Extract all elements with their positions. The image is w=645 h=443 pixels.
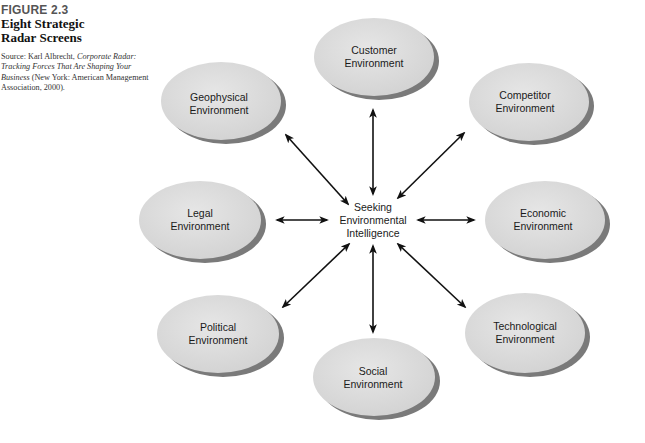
radar-diagram: Customer Environment Competitor Environm… [0, 0, 645, 443]
node-legal-line1: Legal [187, 207, 213, 219]
node-political-line1: Political [200, 321, 236, 333]
node-social-line1: Social [359, 365, 388, 377]
node-technological-line1: Technological [493, 320, 557, 332]
node-geophysical-line2: Environment [190, 104, 249, 116]
node-competitor-line1: Competitor [499, 89, 551, 101]
node-economic-line1: Economic [520, 207, 566, 219]
center-line2: Environmental [339, 214, 406, 226]
node-economic-line2: Environment [514, 220, 573, 232]
center-line3: Intelligence [346, 227, 399, 239]
node-technological-line2: Environment [496, 333, 555, 345]
node-competitor: Competitor Environment [469, 63, 594, 145]
node-customer: Customer Environment [314, 18, 439, 100]
node-social-line2: Environment [344, 378, 403, 390]
arrow-geophysical [286, 135, 348, 204]
node-political-line2: Environment [189, 334, 248, 346]
node-economic: Economic Environment [485, 181, 610, 263]
node-customer-line1: Customer [351, 44, 397, 56]
arrow-political [283, 244, 349, 307]
arrow-technological [398, 244, 465, 307]
node-technological: Technological Environment [465, 293, 590, 377]
arrow-competitor [398, 133, 464, 198]
node-social: Social Environment [313, 338, 440, 420]
node-competitor-line2: Environment [496, 102, 555, 114]
node-geophysical-line1: Geophysical [190, 91, 248, 103]
node-geophysical: Geophysical Environment [161, 62, 286, 144]
center-node: Seeking Environmental Intelligence [339, 201, 406, 239]
node-customer-line2: Environment [345, 57, 404, 69]
center-line1: Seeking [354, 201, 392, 213]
node-legal-line2: Environment [171, 220, 230, 232]
node-political: Political Environment [157, 295, 284, 377]
node-legal: Legal Environment [139, 181, 266, 263]
